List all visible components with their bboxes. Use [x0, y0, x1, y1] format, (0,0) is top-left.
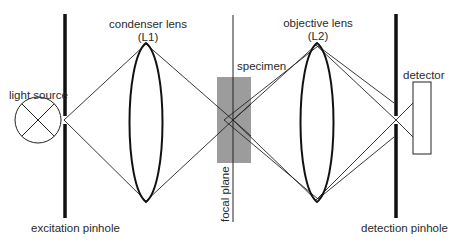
detection-pinhole-label: detection pinhole	[361, 223, 448, 235]
focal-plane-label: focal plane	[220, 166, 232, 222]
detector-label: detector	[403, 70, 445, 82]
condenser-lens-L1	[130, 43, 163, 202]
specimen-label: specimen	[237, 61, 286, 73]
condenser-lens-label: condenser lens	[109, 19, 187, 31]
specimen-block	[217, 77, 251, 163]
objective-lens-id: (L2)	[308, 31, 328, 43]
detector-box	[413, 82, 431, 154]
objective-lens-L2	[301, 43, 334, 202]
excitation-pinhole-label: excitation pinhole	[31, 223, 120, 235]
condenser-lens-id: (L1)	[138, 32, 158, 44]
light-source-label: light source	[9, 90, 68, 102]
objective-lens-label: objective lens	[283, 18, 353, 30]
light-source-icon	[15, 97, 61, 143]
